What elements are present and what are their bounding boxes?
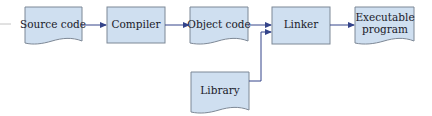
node-label: Source code [20,18,86,30]
node-label: Object code [187,18,250,30]
node-label: Linker [284,18,320,30]
node-linker: Linker [272,7,330,44]
node-label-line-1: Executable [355,11,414,23]
node-executable-program: Executable program [355,7,415,44]
node-source-code: Source code [20,7,86,44]
node-label: Library [200,84,239,96]
flow-diagram: Source code Compiler Object code Linker … [0,0,432,116]
node-label: Compiler [112,18,162,30]
edge-library-to-linker [249,32,271,81]
node-object-code: Object code [187,7,250,44]
node-label-line-2: program [362,23,408,35]
node-library: Library [191,72,249,113]
node-compiler: Compiler [107,7,165,43]
